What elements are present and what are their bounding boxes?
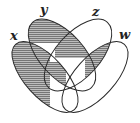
label-y: y [40, 3, 48, 16]
label-z: z [92, 5, 99, 18]
venn-ellipses [0, 0, 140, 123]
shaded-zw-region [85, 40, 125, 100]
shaded-x-region [0, 0, 50, 123]
venn-diagram: x y z w [0, 0, 140, 123]
label-w: w [119, 28, 130, 41]
label-x: x [10, 29, 18, 42]
